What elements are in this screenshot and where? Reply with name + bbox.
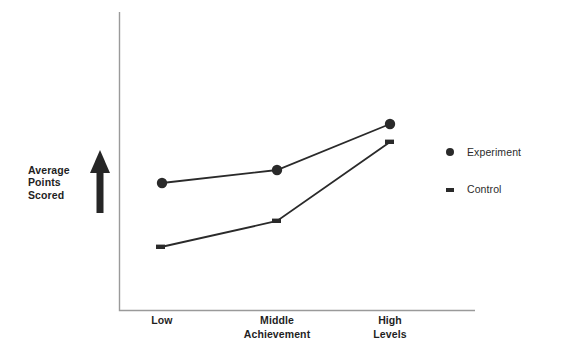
x-axis-title-line-1: Achievement (237, 328, 317, 340)
x-tick-label-middle: Middle (247, 314, 307, 326)
x-tick-label-low: Low (132, 314, 192, 326)
legend-item-experiment: Experiment (446, 146, 521, 158)
dash-marker-icon (446, 188, 454, 192)
legend-label-experiment: Experiment (467, 146, 521, 158)
legend-item-control: Control (446, 183, 502, 195)
circle-marker-icon (446, 148, 454, 156)
legend-label-control: Control (467, 183, 502, 195)
x-tick-label-high: High (360, 314, 420, 326)
y-axis-label: Average Points Scored (28, 164, 90, 201)
data-point-control-middle (272, 219, 281, 223)
data-point-experiment-middle (272, 165, 282, 175)
y-axis-label-line-3: Scored (28, 189, 90, 201)
data-point-experiment-high (385, 119, 395, 129)
x-axis-title-line-2: Levels (360, 328, 420, 340)
data-point-control-high (385, 140, 394, 144)
data-point-experiment-low (157, 178, 167, 188)
y-axis-label-line-2: Points (28, 176, 90, 188)
chart-page: Average Points Scored Low Middle High Ac… (0, 0, 572, 364)
data-point-control-low (156, 245, 165, 249)
y-axis-label-line-1: Average (28, 164, 90, 176)
